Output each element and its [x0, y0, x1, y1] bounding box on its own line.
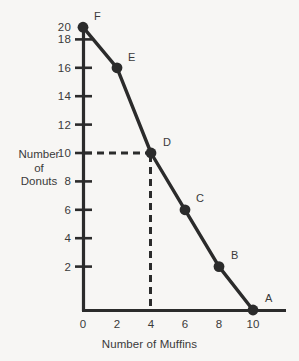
x-tick-label-8: 8 [216, 318, 223, 330]
data-point-f [78, 22, 89, 33]
point-label-d: D [163, 136, 171, 148]
x-tick-label-4: 4 [148, 318, 155, 330]
y-tick-label-16: 16 [52, 62, 71, 74]
x-tick-label-10: 10 [246, 318, 259, 330]
ppf-chart: 20 18 16 14 12 10 8 6 4 2 0 2 4 6 8 10 F… [0, 0, 299, 361]
x-tick-label-2: 2 [114, 318, 121, 330]
data-point-a [248, 305, 259, 316]
data-point-b [214, 261, 225, 272]
y-tick-label-6: 6 [52, 204, 71, 216]
point-label-b: B [231, 249, 238, 261]
ppf-line [83, 27, 253, 310]
point-label-f: F [94, 10, 101, 22]
x-axis-title: Number of Muffins [0, 338, 299, 350]
data-point-e [112, 62, 123, 73]
y-tick-label-20: 20 [52, 21, 71, 33]
x-tick-label-0: 0 [80, 318, 87, 330]
x-tick-label-6: 6 [182, 318, 189, 330]
data-point-d [146, 148, 157, 159]
y-tick-label-2: 2 [52, 261, 71, 273]
y-axis-title-line-2: of [8, 162, 70, 176]
y-axis-title-line-1: Number [8, 148, 70, 162]
y-tick-label-12: 12 [52, 119, 71, 131]
point-label-a: A [265, 292, 272, 304]
point-label-c: C [196, 192, 204, 204]
data-point-c [180, 204, 191, 215]
point-label-e: E [128, 51, 135, 63]
y-axis-title: Number of Donuts [8, 148, 70, 189]
y-tick-label-18: 18 [52, 33, 71, 45]
y-tick-label-4: 4 [52, 232, 71, 244]
data-point-markers [78, 22, 259, 316]
y-axis-title-line-3: Donuts [8, 175, 70, 189]
y-tick-label-14: 14 [52, 90, 71, 102]
